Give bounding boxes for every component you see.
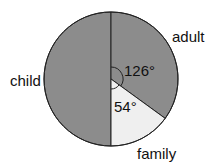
angle-label-adult: 126° [124, 62, 155, 79]
angle-label-family: 54° [114, 98, 137, 115]
label-family: family [137, 145, 177, 162]
label-adult: adult [172, 28, 205, 45]
slice-child [44, 12, 111, 146]
pie-chart: child adult family 126° 54° [0, 0, 207, 164]
label-child: child [10, 72, 41, 89]
